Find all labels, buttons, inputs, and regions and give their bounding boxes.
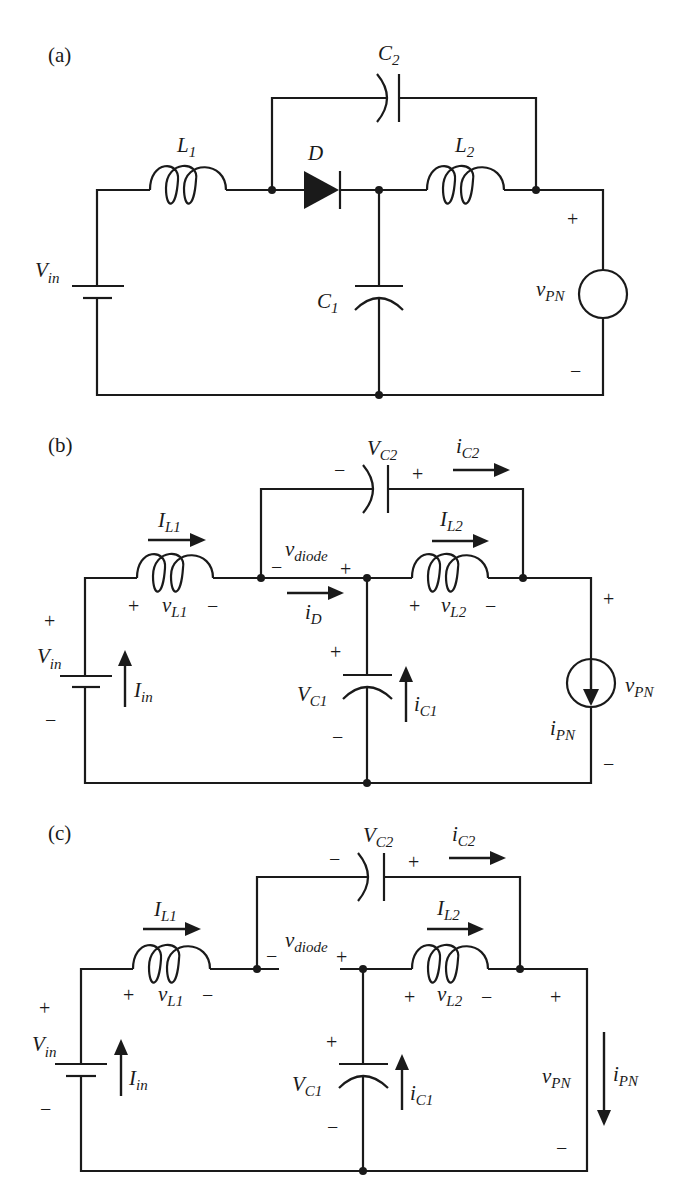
vpn-plus-c: + xyxy=(550,986,561,1008)
vin-label-b: Vin xyxy=(37,644,62,672)
iin-label-b: Iin xyxy=(133,678,153,705)
vc1-minus-b: − xyxy=(332,726,343,748)
vl2-label-c: vL2 xyxy=(437,982,463,1009)
il2-label-b: IL2 xyxy=(439,507,463,534)
vl1-label-c: vL1 xyxy=(158,982,183,1009)
l2-label-a: L2 xyxy=(454,133,475,160)
ic1-label-b: iC1 xyxy=(414,692,437,719)
inductor-l2-b xyxy=(412,554,488,592)
vdiode-minus-b: − xyxy=(271,556,282,578)
vl1-label-b: vL1 xyxy=(162,593,187,620)
battery-vin-c xyxy=(55,1064,107,1076)
ic1-arrow-b xyxy=(399,666,413,722)
panel-label-b: (b) xyxy=(48,433,73,457)
junctions-a xyxy=(268,186,540,399)
panel-a: (a) Vin L1 D xyxy=(35,41,627,399)
panel-b: (b) + Vin − Iin IL1 xyxy=(37,433,654,787)
vpn-minus-b: − xyxy=(603,753,614,775)
il1-label-c: IL1 xyxy=(153,897,177,924)
vdiode-label-c: vdiode xyxy=(285,928,328,955)
voltage-source-vpn-a xyxy=(579,270,627,318)
vpn-label-c: vPN xyxy=(542,1064,571,1091)
il2-arrow-c xyxy=(427,922,484,936)
il2-label-c: IL2 xyxy=(436,896,460,923)
l1-label-a: L1 xyxy=(176,133,196,160)
vpn-label-b: vPN xyxy=(625,673,654,700)
battery-vin-a xyxy=(72,286,124,298)
ic2-arrow-b xyxy=(453,463,510,477)
id-arrow-b xyxy=(287,586,344,600)
ic1-label-c: iC1 xyxy=(410,1081,433,1108)
ipn-label-b: iPN xyxy=(550,716,576,743)
ipn-label-c: iPN xyxy=(613,1062,639,1089)
ic2-label-b: iC2 xyxy=(456,434,480,461)
vc1-plus-b: + xyxy=(330,641,341,663)
vdiode-minus-c: − xyxy=(266,945,277,967)
il1-arrow-b xyxy=(148,533,206,547)
vc1-label-c: VC1 xyxy=(292,1072,322,1099)
vl2-plus-b: + xyxy=(409,595,420,617)
ipn-arrow-c xyxy=(597,1032,611,1126)
vl2-minus-b: − xyxy=(485,595,496,617)
vin-label-a: Vin xyxy=(35,258,60,286)
vdiode-plus-b: + xyxy=(340,558,351,580)
vpn-label-a: vPN xyxy=(536,277,565,304)
panel-label-c: (c) xyxy=(48,821,71,845)
id-label-b: iD xyxy=(305,600,322,627)
vin-plus-c: + xyxy=(39,997,50,1019)
circuit-figure: (a) Vin L1 D xyxy=(0,0,685,1199)
vl1-plus-c: + xyxy=(123,984,134,1006)
ic2-label-c: iC2 xyxy=(452,822,476,849)
vin-label-c: Vin xyxy=(32,1032,57,1060)
vin-minus-b: − xyxy=(45,709,56,731)
vl2-label-b: vL2 xyxy=(441,593,467,620)
vc2-label-c: VC2 xyxy=(363,823,394,850)
vc1-minus-c: − xyxy=(327,1116,338,1138)
vpn-minus-a: − xyxy=(570,360,581,382)
iin-label-c: Iin xyxy=(128,1066,148,1093)
vl2-plus-c: + xyxy=(404,986,415,1008)
vc1-plus-c: + xyxy=(326,1031,337,1053)
vpn-plus-b: + xyxy=(603,588,614,610)
vc2-plus-c: + xyxy=(408,851,419,873)
inductor-l1-a xyxy=(150,166,226,204)
vpn-plus-a: + xyxy=(567,208,578,230)
wires-a xyxy=(97,98,603,395)
il1-label-b: IL1 xyxy=(157,508,181,535)
ic2-arrow-c xyxy=(449,851,506,865)
vl2-minus-c: − xyxy=(481,986,492,1008)
c1-label-a: C1 xyxy=(317,289,339,316)
vdiode-label-b: vdiode xyxy=(285,537,328,564)
iin-arrow-c xyxy=(114,1039,128,1096)
vl1-plus-b: + xyxy=(128,595,139,617)
current-source-ipn-b xyxy=(567,659,615,707)
diode-label-a: D xyxy=(307,141,323,165)
iin-arrow-b xyxy=(118,650,132,707)
battery-vin-b xyxy=(60,676,112,687)
vc2-label-b: VC2 xyxy=(367,436,398,463)
vc2-plus-b: + xyxy=(412,463,423,485)
vin-plus-b: + xyxy=(44,610,55,632)
inductor-l1-b xyxy=(137,554,213,592)
ic1-arrow-c xyxy=(395,1054,409,1110)
diode-d-a xyxy=(304,171,340,209)
inductor-l1-c xyxy=(133,945,210,983)
vdiode-plus-c: + xyxy=(336,946,347,968)
vc2-minus-b: − xyxy=(334,459,345,481)
vc1-label-b: VC1 xyxy=(297,682,327,709)
il1-arrow-c xyxy=(143,922,201,936)
panel-c: (c) + Vin − Iin IL1 + xyxy=(32,821,639,1175)
vin-minus-c: − xyxy=(40,1098,51,1120)
inductor-l2-c xyxy=(412,945,488,983)
inductor-l2-a xyxy=(427,166,504,204)
panel-label-a: (a) xyxy=(48,43,71,67)
il2-arrow-b xyxy=(432,534,489,548)
vc2-minus-c: − xyxy=(329,848,340,870)
vl1-minus-b: − xyxy=(207,595,218,617)
c2-label-a: C2 xyxy=(378,41,400,68)
vpn-minus-c: − xyxy=(556,1137,567,1159)
vl1-minus-c: − xyxy=(202,984,213,1006)
